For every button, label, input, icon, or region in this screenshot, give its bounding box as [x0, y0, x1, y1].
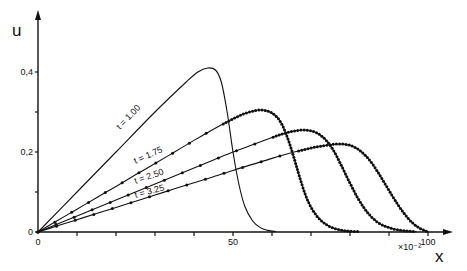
data-point	[303, 148, 306, 151]
curves	[37, 68, 429, 234]
data-point	[359, 149, 362, 152]
data-point	[328, 225, 331, 228]
data-point	[239, 114, 242, 117]
data-point	[301, 183, 304, 186]
data-point	[289, 147, 292, 150]
data-point	[335, 143, 338, 146]
data-point	[285, 134, 288, 137]
data-point	[314, 212, 317, 215]
data-point	[264, 109, 267, 112]
data-point	[104, 191, 107, 194]
data-point	[379, 174, 382, 177]
data-point	[394, 199, 397, 202]
data-point	[199, 164, 202, 167]
data-point	[235, 149, 238, 152]
data-point	[302, 186, 305, 189]
data-point	[351, 187, 354, 190]
data-point	[422, 229, 425, 232]
data-point	[407, 217, 410, 220]
data-point	[188, 142, 191, 145]
data-point	[300, 180, 303, 183]
data-point	[353, 230, 356, 233]
data-point	[353, 190, 356, 193]
data-point	[372, 164, 375, 167]
data-point	[278, 134, 281, 137]
data-point	[340, 229, 343, 232]
curve-325	[38, 144, 428, 232]
data-point	[270, 111, 273, 114]
data-point	[121, 181, 124, 184]
data-point	[370, 216, 373, 219]
x-tick-label: 0	[35, 237, 40, 247]
data-point	[318, 133, 321, 136]
data-point	[303, 189, 306, 192]
x-axis-multiplier: ×10⁻²	[398, 242, 421, 252]
data-point	[366, 156, 369, 159]
data-point	[325, 144, 328, 147]
data-point	[318, 217, 321, 220]
data-point	[163, 179, 166, 182]
data-point	[275, 115, 278, 118]
data-point	[332, 143, 335, 146]
data-point	[267, 110, 270, 113]
data-point	[395, 202, 398, 205]
curve-175	[38, 110, 358, 232]
data-point	[356, 195, 359, 198]
data-point	[425, 230, 428, 233]
data-point	[319, 145, 322, 148]
curve-label: t = 1.75	[132, 144, 164, 165]
data-point	[290, 130, 293, 133]
data-point	[405, 215, 408, 218]
data-point	[396, 228, 399, 231]
data-point	[390, 227, 393, 230]
data-point	[381, 223, 384, 226]
curve-250	[38, 130, 416, 232]
data-point	[73, 216, 76, 219]
data-point	[405, 230, 408, 233]
data-point	[325, 223, 328, 226]
data-point	[409, 230, 412, 233]
data-point	[296, 129, 299, 132]
data-point	[356, 148, 359, 151]
data-point	[257, 109, 260, 112]
data-point	[375, 169, 378, 172]
data-point	[384, 225, 387, 228]
data-point	[297, 149, 300, 152]
data-point	[309, 204, 312, 207]
data-point	[74, 219, 77, 222]
data-point	[337, 158, 340, 161]
data-point	[204, 178, 207, 181]
data-point	[320, 220, 323, 223]
data-point	[245, 111, 248, 114]
data-point	[403, 212, 406, 215]
data-point	[254, 109, 257, 112]
data-point	[338, 161, 341, 164]
data-point	[316, 215, 319, 218]
data-point	[401, 210, 404, 213]
data-point	[154, 162, 157, 165]
data-point	[293, 129, 296, 132]
data-point	[127, 193, 130, 196]
data-point	[329, 143, 332, 146]
x-tick-label: 100	[420, 237, 435, 247]
data-point	[227, 119, 230, 122]
data-point	[306, 147, 309, 150]
data-point	[402, 229, 405, 232]
data-point	[380, 177, 383, 180]
data-point	[309, 129, 312, 132]
data-point	[261, 109, 264, 112]
data-point	[282, 126, 285, 129]
data-point	[272, 113, 275, 116]
data-point	[382, 180, 385, 183]
data-point	[217, 156, 220, 159]
data-point	[340, 164, 343, 167]
data-point	[312, 130, 315, 133]
x-tick-label: 50	[228, 237, 238, 247]
data-point	[70, 211, 73, 214]
data-point	[337, 228, 340, 231]
data-point	[392, 196, 395, 199]
data-point	[325, 139, 328, 142]
data-point	[414, 224, 417, 227]
data-point	[241, 166, 244, 169]
data-point	[287, 140, 290, 143]
